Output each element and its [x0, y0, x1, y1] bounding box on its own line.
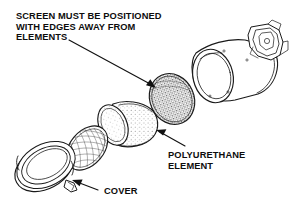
polyurethane-line-1: POLYURETHANE	[168, 150, 245, 160]
callout-cover: COVER	[104, 186, 138, 196]
screen-note-line-2: WITH EDGES AWAY FROM	[16, 22, 136, 32]
screen-note-line-3: ELEMENTS	[16, 32, 67, 42]
technical-illustration: SCREEN MUST BE POSITIONED WITH EDGES AWA…	[0, 0, 291, 207]
cover-label: COVER	[104, 186, 138, 196]
screen-note-line-1: SCREEN MUST BE POSITIONED	[16, 11, 162, 21]
polyurethane-line-2: ELEMENT	[168, 161, 213, 171]
exploded-view-figure: SCREEN MUST BE POSITIONED WITH EDGES AWA…	[0, 0, 291, 207]
